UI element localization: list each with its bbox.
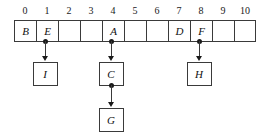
array-cell-7: D <box>169 21 191 41</box>
array-cell-5 <box>125 21 147 41</box>
edge-arrow-to-g <box>108 102 114 107</box>
edge-line-cell4-to-c <box>111 41 112 57</box>
array-cell-8: F <box>191 21 213 41</box>
array-index-labels: 0 1 2 3 4 5 6 7 8 9 10 <box>14 4 256 18</box>
array-index-5: 5 <box>124 4 146 18</box>
array-index-4: 4 <box>102 4 124 18</box>
edge-line-cell1-to-i <box>45 41 46 57</box>
diagram-canvas: 0 1 2 3 4 5 6 7 8 9 10 B E A D F I C G H <box>0 0 269 140</box>
array-index-2: 2 <box>58 4 80 18</box>
array-cell-10 <box>235 21 257 41</box>
edge-arrow-to-i <box>42 56 48 61</box>
array-index-1: 1 <box>36 4 58 18</box>
array-cell-4: A <box>103 21 125 41</box>
node-i: I <box>33 62 58 86</box>
array-cell-9 <box>213 21 235 41</box>
edge-line-c-to-g <box>111 85 112 103</box>
edge-arrow-to-h <box>196 56 202 61</box>
array-index-9: 9 <box>212 4 234 18</box>
array-index-0: 0 <box>14 4 36 18</box>
array-index-8: 8 <box>190 4 212 18</box>
array-index-3: 3 <box>80 4 102 18</box>
array-cell-6 <box>147 21 169 41</box>
node-h: H <box>187 62 212 86</box>
array-cell-3 <box>81 21 103 41</box>
edge-line-cell8-to-h <box>199 41 200 57</box>
array-cell-1: E <box>37 21 59 41</box>
array-cell-2 <box>59 21 81 41</box>
array-index-7: 7 <box>168 4 190 18</box>
node-g: G <box>99 108 124 132</box>
edge-arrow-to-c <box>108 56 114 61</box>
array-index-6: 6 <box>146 4 168 18</box>
array-cell-0: B <box>15 21 37 41</box>
array-index-10: 10 <box>234 4 256 18</box>
array-container: B E A D F <box>14 20 256 42</box>
